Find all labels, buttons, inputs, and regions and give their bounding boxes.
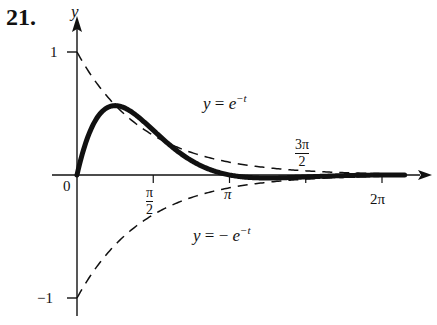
- plot-area: [0, 0, 437, 325]
- x-tick-label-0: 0: [63, 178, 71, 195]
- x-tick-label-2pi: 2π: [370, 191, 385, 208]
- axes: [52, 16, 432, 316]
- damped-sine-curve: [77, 106, 405, 178]
- x-tick-label-pi-over-2: π 2: [146, 186, 153, 217]
- x-tick-label-3pi-over-2: 3π 2: [295, 138, 309, 169]
- x-axis-arrow-icon: [418, 170, 432, 180]
- y-axis-label: y: [71, 2, 79, 22]
- y-tick-label-neg1: −1: [37, 290, 53, 307]
- x-tick-label-pi: π: [224, 186, 232, 203]
- annotation-lower-envelope: y = − e−t: [193, 224, 251, 246]
- y-tick-label-1: 1: [50, 44, 58, 61]
- annotation-upper-envelope: y = e−t: [203, 92, 247, 114]
